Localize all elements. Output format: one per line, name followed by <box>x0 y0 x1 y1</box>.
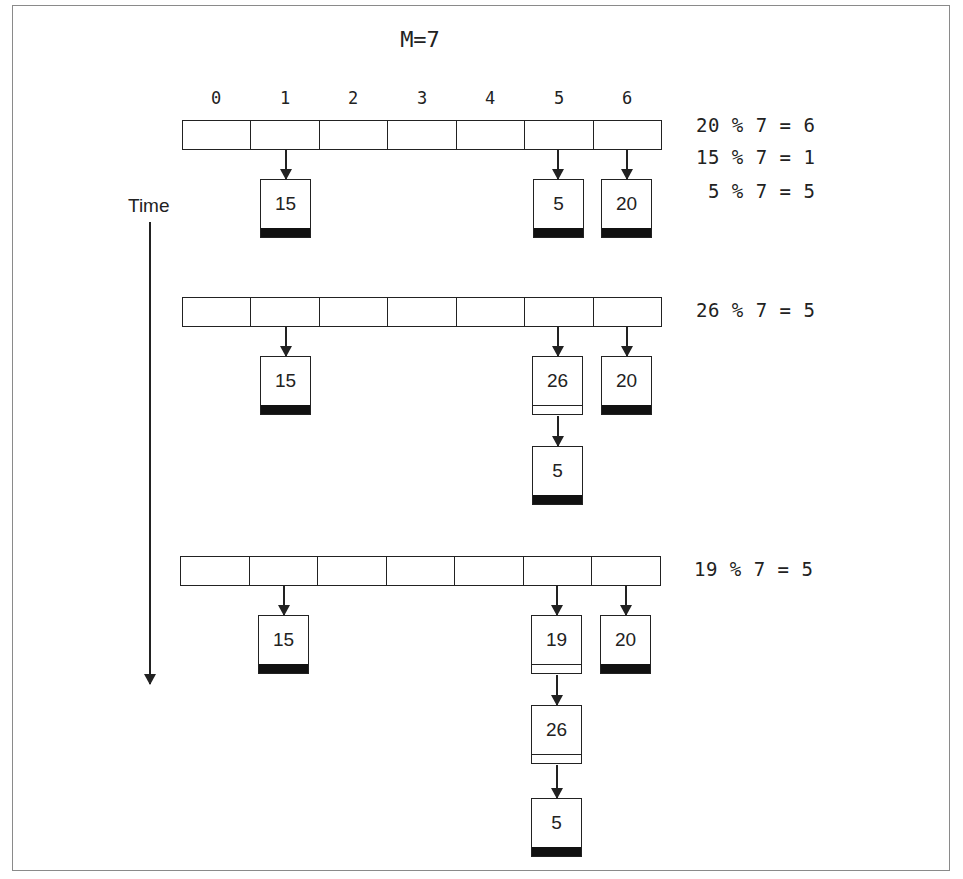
hash-formula: 26 % 7 = 5 <box>696 299 815 321</box>
list-node: 15 <box>258 615 309 674</box>
hash-formula: 5 % 7 = 5 <box>696 180 815 202</box>
list-node: 5 <box>531 798 582 857</box>
bucket-cell-1 <box>251 121 319 149</box>
bucket-cell-2 <box>318 557 387 585</box>
pointer-arrow-icon <box>285 326 287 356</box>
bucket-cell-6 <box>592 557 660 585</box>
null-pointer <box>259 664 308 673</box>
null-pointer <box>533 495 582 504</box>
hash-formula: 19 % 7 = 5 <box>694 558 813 580</box>
list-node: 15 <box>260 356 311 415</box>
time-axis-arrow-icon <box>149 222 151 684</box>
list-node: 26 <box>532 356 583 415</box>
list-node: 20 <box>601 356 652 415</box>
bucket-cell-1 <box>251 298 319 326</box>
bucket-cell-5 <box>525 298 593 326</box>
null-pointer <box>602 228 651 237</box>
list-node: 20 <box>600 615 651 674</box>
pointer-arrow-icon <box>556 765 558 798</box>
bucket-cell-0 <box>183 298 251 326</box>
node-value: 15 <box>261 357 310 405</box>
hash-table-array <box>182 120 662 150</box>
bucket-cell-2 <box>320 121 388 149</box>
pointer-arrow-icon <box>556 585 558 615</box>
time-axis-label: Time <box>128 195 170 217</box>
bucket-index-6: 6 <box>593 88 661 108</box>
null-pointer <box>261 405 310 414</box>
pointer-arrow-icon <box>556 675 558 705</box>
bucket-cell-1 <box>250 557 319 585</box>
bucket-cell-6 <box>594 298 661 326</box>
node-value: 20 <box>602 357 651 405</box>
hash-formula: 20 % 7 = 6 <box>696 114 815 136</box>
node-value: 19 <box>532 616 581 664</box>
pointer-arrow-icon <box>557 149 559 179</box>
pointer-arrow-icon <box>557 326 559 356</box>
next-pointer <box>533 405 582 414</box>
next-pointer <box>532 664 581 673</box>
bucket-cell-5 <box>525 121 593 149</box>
bucket-cell-4 <box>457 298 525 326</box>
bucket-cell-6 <box>594 121 661 149</box>
hash-table-array <box>180 556 661 586</box>
list-node: 19 <box>531 615 582 674</box>
pointer-arrow-icon <box>626 326 628 356</box>
null-pointer <box>602 405 651 414</box>
pointer-arrow-icon <box>285 149 287 179</box>
bucket-cell-3 <box>388 298 456 326</box>
node-value: 5 <box>532 799 581 847</box>
pointer-arrow-icon <box>557 416 559 446</box>
bucket-cell-4 <box>455 557 524 585</box>
pointer-arrow-icon <box>283 585 285 615</box>
null-pointer <box>261 228 310 237</box>
list-node: 5 <box>532 446 583 505</box>
node-value: 15 <box>259 616 308 664</box>
pointer-arrow-icon <box>626 149 628 179</box>
node-value: 20 <box>601 616 650 664</box>
bucket-index-2: 2 <box>319 88 387 108</box>
hash-formula: 15 % 7 = 1 <box>696 146 815 168</box>
hash-table-array <box>182 297 662 327</box>
list-node: 15 <box>260 179 311 238</box>
bucket-cell-5 <box>524 557 593 585</box>
bucket-cell-0 <box>183 121 251 149</box>
bucket-index-5: 5 <box>525 88 593 108</box>
null-pointer <box>601 664 650 673</box>
list-node: 26 <box>531 705 582 764</box>
bucket-index-4: 4 <box>456 88 524 108</box>
list-node: 20 <box>601 179 652 238</box>
bucket-index-0: 0 <box>182 88 250 108</box>
node-value: 15 <box>261 180 310 228</box>
bucket-cell-3 <box>388 121 456 149</box>
node-value: 26 <box>533 357 582 405</box>
null-pointer <box>534 228 583 237</box>
node-value: 26 <box>532 706 581 754</box>
bucket-cell-4 <box>457 121 525 149</box>
bucket-cell-2 <box>320 298 388 326</box>
list-node: 5 <box>533 179 584 238</box>
null-pointer <box>532 847 581 856</box>
bucket-index-3: 3 <box>388 88 456 108</box>
node-value: 20 <box>602 180 651 228</box>
pointer-arrow-icon <box>625 585 627 615</box>
next-pointer <box>532 754 581 763</box>
node-value: 5 <box>533 447 582 495</box>
bucket-cell-0 <box>181 557 250 585</box>
bucket-index-1: 1 <box>251 88 319 108</box>
diagram-title: M=7 <box>380 27 460 52</box>
bucket-cell-3 <box>387 557 456 585</box>
node-value: 5 <box>534 180 583 228</box>
